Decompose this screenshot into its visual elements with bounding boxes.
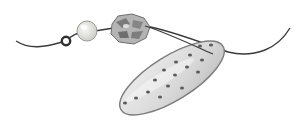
faceted-bead: [111, 14, 150, 44]
pearl-bead: [77, 21, 97, 41]
ring-bead: [62, 37, 70, 45]
bead-drawing: [0, 0, 307, 127]
string: [16, 26, 290, 54]
bead-illustration: Grayscale pencil sketch of beads threade…: [0, 0, 307, 127]
